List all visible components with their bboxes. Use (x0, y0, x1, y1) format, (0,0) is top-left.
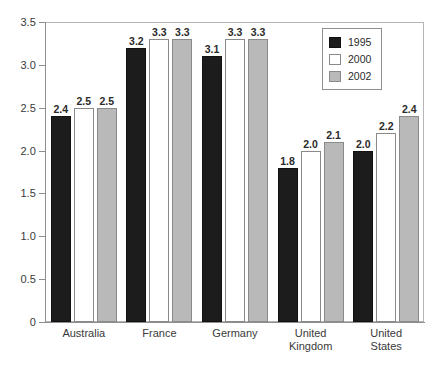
x-axis-category-label: United Kingdom (273, 327, 349, 353)
y-axis-tick-mark (39, 193, 45, 194)
y-axis-tick-mark (39, 151, 45, 152)
y-axis-tick-mark (39, 65, 45, 66)
legend-item-label: 2000 (348, 54, 371, 65)
bar (353, 151, 373, 322)
bar (51, 116, 71, 322)
y-axis-tick-mark (39, 322, 45, 323)
bar (324, 142, 344, 322)
bar (248, 39, 268, 322)
y-axis-tick: 1.0 (0, 230, 45, 242)
y-axis-tick: 0 (0, 316, 45, 328)
bar (149, 39, 169, 322)
bar-value-label: 2.0 (349, 139, 377, 150)
bar-value-label: 3.3 (168, 27, 196, 38)
white-swatch (329, 54, 341, 65)
y-axis-tick-mark (39, 279, 45, 280)
x-axis-category-label: United States (348, 327, 424, 353)
x-axis-category-label: France (122, 327, 198, 340)
legend-item: 1995 (329, 34, 381, 51)
bar-value-label: 2.4 (395, 104, 423, 115)
y-axis-tick: 3.5 (0, 16, 45, 28)
x-axis-line (45, 322, 425, 323)
bar-value-label: 2.5 (93, 96, 121, 107)
bar-value-label: 3.3 (244, 27, 272, 38)
y-axis-tick-mark (39, 22, 45, 23)
legend: 199520002002 (322, 28, 382, 90)
bar (172, 39, 192, 322)
legend-item: 2002 (329, 68, 381, 85)
x-axis-category-label: Germany (197, 327, 273, 340)
bar-value-label: 3.1 (198, 44, 226, 55)
bar-value-label: 2.2 (372, 121, 400, 132)
bar-chart: 00.51.01.52.02.53.03.5 2.42.52.53.23.33.… (0, 0, 442, 367)
bar (278, 168, 298, 322)
bar (202, 56, 222, 322)
y-axis-tick: 1.5 (0, 187, 45, 199)
bar (97, 108, 117, 322)
y-axis-tick: 2.5 (0, 102, 45, 114)
bar-value-label: 1.8 (274, 156, 302, 167)
y-axis-tick: 0.5 (0, 273, 45, 285)
legend-item: 2000 (329, 51, 381, 68)
bar (376, 133, 396, 322)
x-axis-category-label: Australia (46, 327, 122, 340)
gray-swatch (329, 71, 341, 82)
black-swatch (329, 37, 341, 48)
bar (225, 39, 245, 322)
y-axis-tick-mark (39, 108, 45, 109)
bar (399, 116, 419, 322)
legend-item-label: 2002 (348, 71, 371, 82)
bar (74, 108, 94, 322)
y-axis-tick-mark (39, 236, 45, 237)
bar-value-label: 2.1 (320, 130, 348, 141)
y-axis-tick: 2.0 (0, 145, 45, 157)
legend-item-label: 1995 (348, 37, 371, 48)
bar (126, 48, 146, 322)
y-axis-tick: 3.0 (0, 59, 45, 71)
bar (301, 151, 321, 322)
